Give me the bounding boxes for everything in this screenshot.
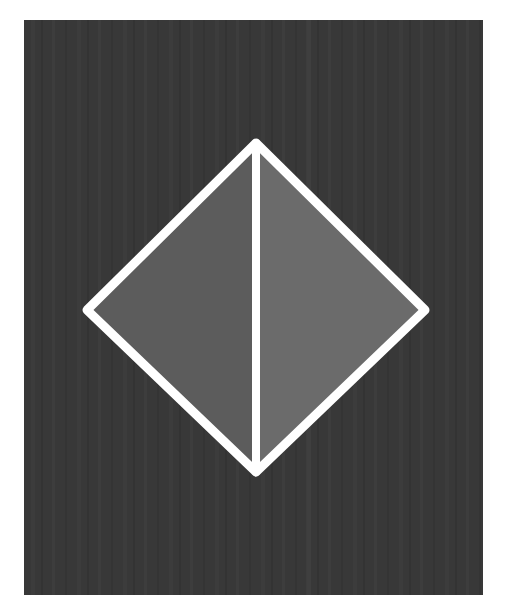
diamond-graphic	[0, 0, 505, 597]
